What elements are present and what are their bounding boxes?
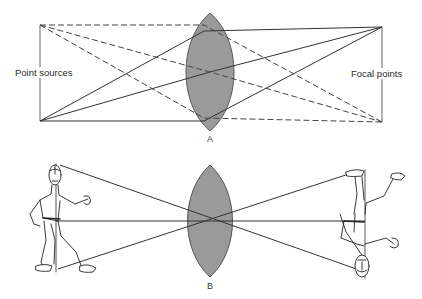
lens-diagram (0, 0, 422, 299)
object-person-upright (30, 164, 96, 272)
panel-b (30, 164, 405, 278)
point-sources-label: Point sources (14, 67, 74, 78)
panel-a (40, 13, 382, 131)
focal-points-label: Focal points (350, 68, 403, 79)
panel-a-label: A (207, 134, 213, 144)
image-person-inverted (340, 170, 405, 278)
panel-b-label: B (207, 281, 213, 291)
